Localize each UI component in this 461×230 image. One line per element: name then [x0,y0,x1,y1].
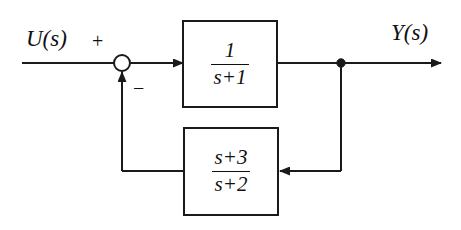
transfer-function-block-forward[interactable]: 1 s+1 [182,20,278,108]
summing-junction-circle [114,55,130,71]
fraction-numerator: 1 [211,39,250,64]
fraction-denominator: s+1 [211,65,250,90]
block-diagram-canvas: 1 s+1 s+3 s+2 U(s) + − Y(s) [0,0,461,230]
fraction-numerator: s+3 [212,146,251,171]
output-signal-label: Y(s) [391,20,428,46]
summing-junction-minus-sign: − [133,77,144,100]
fraction-feedback: s+3 s+2 [212,146,251,196]
fraction-forward: 1 s+1 [211,39,250,89]
fraction-denominator: s+2 [212,172,251,197]
summing-junction-plus-sign: + [92,30,103,53]
input-signal-label: U(s) [26,26,67,52]
transfer-function-block-feedback[interactable]: s+3 s+2 [183,127,279,216]
